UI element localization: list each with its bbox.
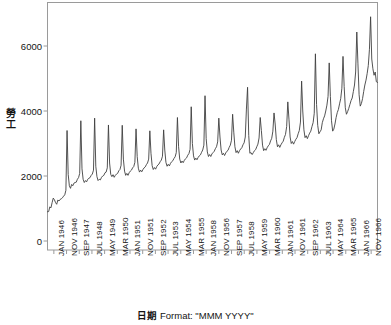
x-axis-tick-label: SEP 1952 <box>159 219 168 256</box>
x-axis-title-format: Format: "MMM YYYY" <box>157 310 253 321</box>
x-axis-tick-label: JUL 1953 <box>171 221 180 256</box>
plot-area <box>0 0 391 325</box>
x-axis-tick-label: NOV 1966 <box>374 218 383 256</box>
y-axis-ticks <box>44 46 48 241</box>
x-axis-tick-label: JUL 1963 <box>324 221 333 256</box>
x-axis-tick-label: NOV 1946 <box>70 218 79 256</box>
time-series-chart: 勞 工 0200040006000 JAN 1946NOV 1946SEP 19… <box>0 0 391 325</box>
x-axis-title-cjk: 日期 <box>137 310 157 321</box>
x-axis-tick-label: NOV 1956 <box>222 218 231 256</box>
x-axis-tick-label: MAR 1955 <box>197 217 206 256</box>
x-axis-tick-label: MAR 1960 <box>273 217 282 256</box>
x-axis-tick-label: JAN 1961 <box>286 220 295 256</box>
x-axis-title: 日期 Format: "MMM YYYY" <box>0 308 391 322</box>
x-axis-tick-label: JAN 1951 <box>133 220 142 256</box>
x-axis-tick-label: JAN 1946 <box>57 220 66 256</box>
x-axis-tick-label: MAR 1950 <box>121 217 130 256</box>
x-axis-tick-label: SEP 1962 <box>311 219 320 256</box>
x-axis-tick-label: JUL 1958 <box>247 221 256 256</box>
x-axis-tick-label: MAR 1965 <box>349 217 358 256</box>
x-axis-tick-label: JAN 1966 <box>362 220 371 256</box>
x-axis-tick-label: MAY 1964 <box>336 219 345 256</box>
x-axis-tick-label: JAN 1958 <box>209 220 218 256</box>
x-axis-tick-label: SEP 1957 <box>235 219 244 256</box>
plot-frame <box>48 3 378 251</box>
x-axis-tick-label: SEP 1947 <box>82 219 91 256</box>
x-axis-tick-label: NOV 1961 <box>298 218 307 256</box>
x-axis-tick-label: MAY 1949 <box>108 219 117 256</box>
x-axis-tick-label: MAY 1959 <box>260 219 269 256</box>
x-axis-tick-label: MAY 1954 <box>184 219 193 256</box>
x-axis-tick-label: NOV 1951 <box>146 218 155 256</box>
x-axis-tick-label: JUL 1948 <box>95 221 104 256</box>
